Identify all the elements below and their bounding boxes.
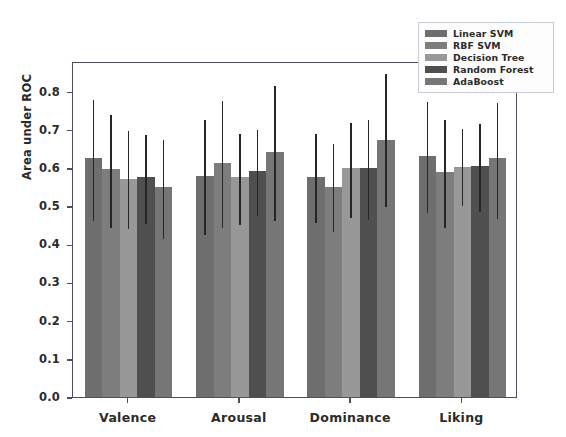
error-bar xyxy=(315,134,317,224)
error-bar xyxy=(239,134,241,226)
roc-bar-chart: Area under ROC 0.00.10.20.30.40.50.60.70… xyxy=(0,0,566,437)
error-bar xyxy=(128,131,130,230)
error-bar xyxy=(222,101,224,228)
error-bar xyxy=(479,124,481,212)
legend-item: AdaBoost xyxy=(425,75,547,87)
legend-label: RBF SVM xyxy=(453,40,501,51)
x-tick-label: Dominance xyxy=(310,410,391,425)
legend-swatch xyxy=(425,78,447,85)
legend: Linear SVMRBF SVMDecision TreeRandom For… xyxy=(418,22,554,93)
error-bar xyxy=(444,120,446,229)
x-tick-mark xyxy=(238,398,239,403)
legend-label: AdaBoost xyxy=(453,76,504,87)
legend-swatch xyxy=(425,30,447,37)
error-bar xyxy=(110,115,112,229)
y-tick-label: 0.4 xyxy=(39,237,60,251)
error-bar xyxy=(385,74,387,207)
legend-item: RBF SVM xyxy=(425,39,547,51)
error-bar xyxy=(368,120,370,219)
error-bar xyxy=(204,120,206,235)
error-bar xyxy=(93,100,95,221)
x-tick-label: Valence xyxy=(99,410,156,425)
y-tick-label: 0.1 xyxy=(39,352,60,366)
y-tick-label: 0.5 xyxy=(39,199,60,213)
legend-label: Linear SVM xyxy=(453,28,513,39)
error-bar xyxy=(497,103,499,219)
error-bar xyxy=(350,123,352,218)
x-tick-label: Liking xyxy=(439,410,484,425)
y-tick-label: 0.3 xyxy=(39,275,60,289)
y-axis-label: Area under ROC xyxy=(20,74,34,180)
x-tick-mark xyxy=(349,398,350,403)
legend-item: Decision Tree xyxy=(425,51,547,63)
y-tick-label: 0.6 xyxy=(39,161,60,175)
y-tick-label: 0.7 xyxy=(39,123,60,137)
x-tick-mark xyxy=(461,398,462,403)
error-bar xyxy=(163,140,165,239)
legend-swatch xyxy=(425,54,447,61)
x-tick-label: Arousal xyxy=(211,410,267,425)
y-tick-label: 0.2 xyxy=(39,314,60,328)
error-bar xyxy=(145,135,147,224)
legend-label: Decision Tree xyxy=(453,52,525,63)
error-bar xyxy=(333,144,335,232)
legend-item: Linear SVM xyxy=(425,27,547,39)
legend-swatch xyxy=(425,66,447,73)
y-tick-label: 0.0 xyxy=(39,390,60,404)
plot-area xyxy=(72,62,517,398)
error-bar xyxy=(274,86,276,222)
error-bar xyxy=(257,130,259,217)
legend-item: Random Forest xyxy=(425,63,547,75)
y-tick-label: 0.8 xyxy=(39,85,60,99)
error-bar xyxy=(427,102,429,213)
x-tick-mark xyxy=(127,398,128,403)
error-bar xyxy=(462,129,464,207)
legend-swatch xyxy=(425,42,447,49)
legend-label: Random Forest xyxy=(453,64,534,75)
